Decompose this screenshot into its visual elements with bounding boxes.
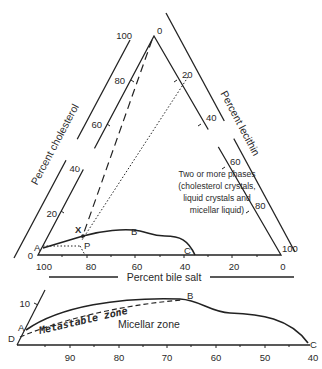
micellar-zone-label: Micellar zone — [118, 318, 180, 330]
svg-text:80: 80 — [114, 352, 125, 363]
svg-text:60: 60 — [230, 156, 241, 167]
svg-text:100: 100 — [36, 261, 52, 272]
svg-text:0: 0 — [157, 25, 162, 36]
svg-text:40: 40 — [308, 352, 319, 363]
svg-text:0: 0 — [280, 261, 285, 272]
svg-text:Two or more phases: Two or more phases — [178, 169, 255, 179]
svg-text:B: B — [131, 226, 137, 237]
svg-text:100: 100 — [116, 30, 132, 41]
svg-text:100: 100 — [282, 243, 298, 254]
svg-text:B: B — [187, 290, 193, 301]
svg-text:P: P — [84, 240, 90, 251]
svg-text:X: X — [75, 224, 82, 235]
svg-text:C: C — [310, 339, 317, 350]
svg-text:20: 20 — [46, 208, 57, 219]
svg-text:20: 20 — [229, 261, 240, 272]
svg-text:20: 20 — [182, 69, 193, 80]
svg-text:A: A — [18, 322, 25, 333]
svg-text:40: 40 — [206, 112, 217, 123]
ternary-phase-diagram: 100 80 60 40 20 0 0 20 40 60 80 100 100 … — [0, 0, 322, 369]
svg-text:10: 10 — [19, 298, 30, 309]
svg-text:80: 80 — [114, 75, 125, 86]
svg-text:0: 0 — [28, 250, 33, 261]
svg-text:(cholesterol crystals,: (cholesterol crystals, — [178, 181, 255, 191]
svg-text:90: 90 — [65, 352, 76, 363]
svg-text:C: C — [184, 245, 191, 256]
svg-text:micellar liquid): micellar liquid) — [190, 205, 244, 215]
svg-text:60: 60 — [211, 352, 222, 363]
inset-micellar-zone-chart: Metastable zone Micellar zone 10 90 80 7… — [8, 290, 318, 363]
svg-text:D: D — [8, 333, 15, 344]
svg-text:A: A — [34, 242, 41, 253]
svg-text:80: 80 — [86, 261, 97, 272]
dashed-line-apex-to-x — [82, 40, 152, 238]
svg-text:50: 50 — [260, 352, 271, 363]
svg-text:80: 80 — [255, 200, 266, 211]
svg-text:60: 60 — [91, 119, 102, 130]
bile-salt-axis-title: Percent bile salt — [127, 271, 202, 283]
solubility-curve — [43, 230, 195, 255]
point-x-marker — [81, 234, 85, 238]
metastable-zone-label: Metastable zone — [37, 305, 128, 336]
svg-text:liquid crystals and: liquid crystals and — [183, 193, 251, 203]
svg-text:70: 70 — [162, 352, 173, 363]
